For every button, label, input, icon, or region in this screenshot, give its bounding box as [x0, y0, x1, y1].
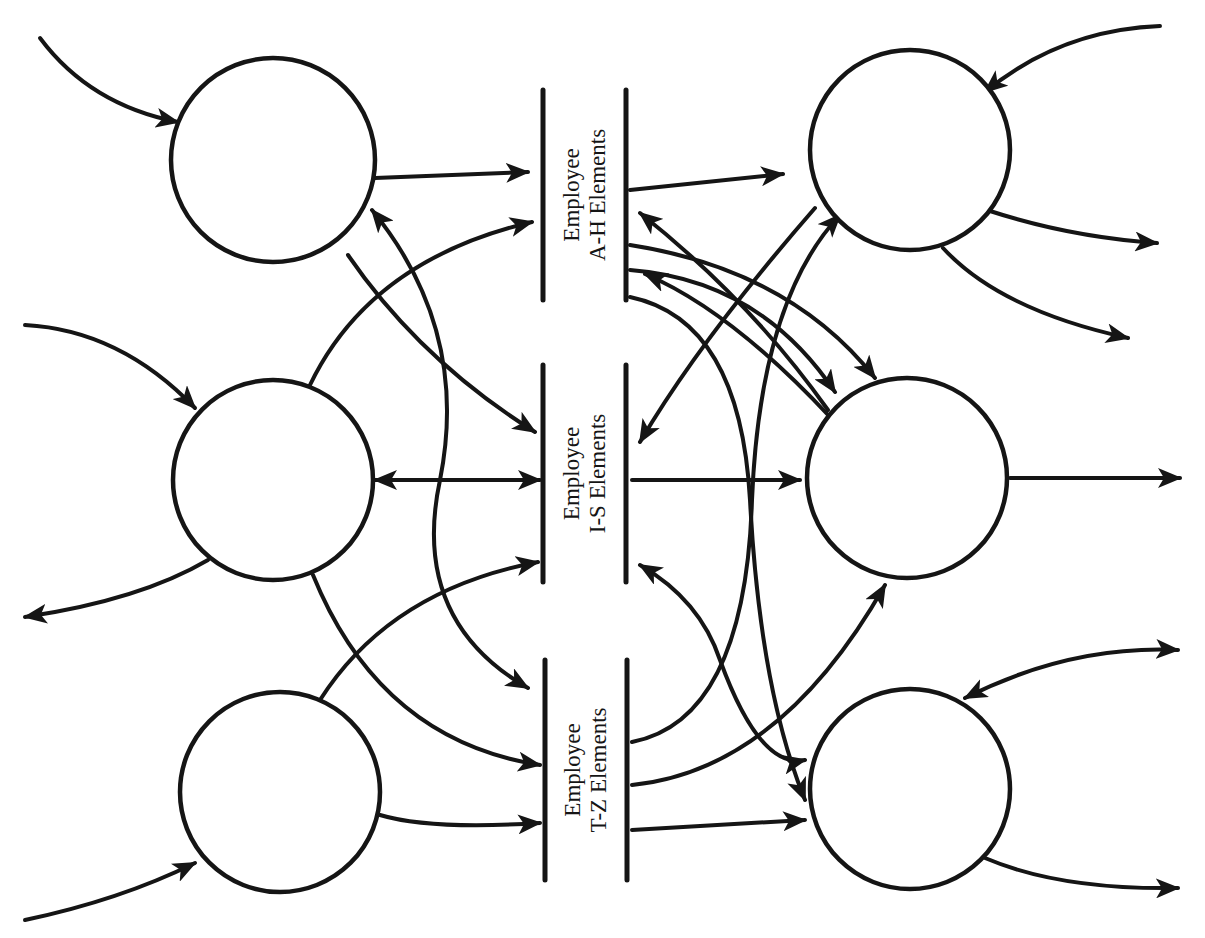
- process-circle-left-mid: [173, 380, 373, 580]
- flow-arrow: [380, 815, 540, 825]
- process-circle-right-bottom: [810, 689, 1010, 889]
- flow-arrow: [310, 222, 532, 385]
- bidirectional-arrow: [965, 650, 1178, 698]
- flow-arrow: [630, 174, 783, 190]
- store-i-s: EmployeeI-S Elements: [543, 365, 626, 582]
- process-circle-right-mid: [807, 378, 1007, 578]
- flow-arrow: [375, 172, 528, 178]
- flow-arrow: [25, 560, 208, 617]
- flow-arrow: [630, 297, 805, 800]
- flow-arrow: [630, 270, 835, 392]
- store-label-line2: I-S Elements: [585, 414, 610, 533]
- process-circle-left-bottom: [180, 692, 380, 892]
- process-circle-right-top: [810, 50, 1010, 250]
- flow-arrow: [985, 858, 1178, 888]
- store-t-z: EmployeeT-Z Elements: [545, 660, 627, 880]
- process-circle-left-top: [171, 58, 375, 262]
- store-label: EmployeeT-Z Elements: [560, 707, 611, 832]
- flow-arrow: [645, 274, 830, 417]
- data-stores: EmployeeA-H ElementsEmployeeI-S Elements…: [543, 90, 627, 880]
- store-label: EmployeeI-S Elements: [559, 414, 610, 533]
- flow-arrow: [40, 38, 178, 122]
- flow-arrow: [943, 248, 1128, 338]
- flow-arrow: [990, 211, 1157, 243]
- store-a-h: EmployeeA-H Elements: [543, 90, 626, 300]
- flow-arrow: [320, 562, 538, 700]
- store-label-line1: Employee: [560, 723, 585, 816]
- store-label-line2: A-H Elements: [585, 129, 610, 261]
- store-label-line2: T-Z Elements: [586, 707, 611, 832]
- flow-arrow: [632, 820, 805, 830]
- flow-arrow: [985, 26, 1160, 92]
- employee-data-flow-diagram: EmployeeA-H ElementsEmployeeI-S Elements…: [0, 0, 1205, 938]
- store-label-line1: Employee: [559, 148, 584, 241]
- flow-arrow: [25, 863, 195, 920]
- store-label: EmployeeA-H Elements: [559, 129, 610, 261]
- store-label-line1: Employee: [559, 427, 584, 520]
- flow-arrow: [25, 325, 195, 408]
